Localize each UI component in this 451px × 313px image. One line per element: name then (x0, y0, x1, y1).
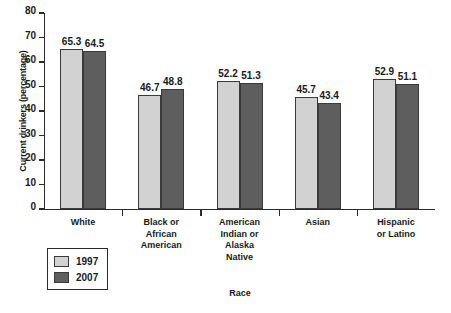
y-tick-70: 70 (39, 37, 44, 38)
bar-group: 65.364.5 (60, 13, 106, 209)
bar-1997[interactable] (295, 97, 318, 209)
plot-area: 01020304050607080 65.364.546.748.852.251… (44, 13, 435, 210)
y-tick-10: 10 (39, 184, 44, 185)
legend-swatch-2007 (54, 272, 69, 283)
category-label-line: Black or (116, 217, 206, 229)
bar-group: 52.951.1 (373, 13, 419, 209)
legend-item-1997: 1997 (54, 253, 98, 269)
bar-group: 46.748.8 (138, 13, 184, 209)
x-separator-tick (357, 210, 358, 216)
bar-1997[interactable] (217, 81, 240, 209)
y-tick-label-20: 20 (25, 152, 36, 163)
bar-1997[interactable] (60, 49, 83, 209)
legend-label-2007: 2007 (76, 272, 98, 283)
y-tick-0: 0 (39, 208, 44, 209)
bar-chart: Current drinkers (percentage) 0102030405… (0, 0, 451, 313)
category-label-line: African (116, 229, 206, 241)
bar-pair (373, 79, 419, 209)
category-label-line: White (38, 217, 128, 229)
x-separator-tick (279, 210, 280, 216)
category-label-line: Asian (273, 217, 363, 229)
x-separator-tick (200, 210, 201, 216)
legend-swatch-1997 (54, 256, 69, 267)
data-label: 51.3 (237, 70, 265, 81)
y-tick-label-0: 0 (30, 201, 36, 212)
y-tick-label-30: 30 (25, 128, 36, 139)
category-label: Asian (273, 217, 363, 229)
legend-label-1997: 1997 (76, 256, 98, 267)
data-label: 64.5 (81, 38, 109, 49)
data-label: 48.8 (159, 76, 187, 87)
y-tick-label-60: 60 (25, 54, 36, 65)
y-tick-40: 40 (39, 110, 44, 111)
bar-1997[interactable] (373, 79, 396, 209)
category-label-line: Alaska (195, 240, 285, 252)
category-label-line: American (195, 217, 285, 229)
y-tick-label-50: 50 (25, 79, 36, 90)
legend-item-2007: 2007 (54, 269, 98, 285)
y-tick-label-10: 10 (25, 177, 36, 188)
bar-group: 45.743.4 (295, 13, 341, 209)
y-tick-label-40: 40 (25, 103, 36, 114)
bar-2007[interactable] (396, 84, 419, 209)
category-label: Black orAfricanAmerican (116, 217, 206, 252)
category-label-line: or Latino (351, 229, 441, 241)
category-label-line: Native (195, 252, 285, 264)
y-tick-50: 50 (39, 86, 44, 87)
bar-pair (295, 97, 341, 209)
category-label: Hispanicor Latino (351, 217, 441, 240)
bar-2007[interactable] (83, 51, 106, 209)
y-tick-80: 80 (39, 12, 44, 13)
y-tick-60: 60 (39, 61, 44, 62)
legend: 1997 2007 (47, 248, 108, 290)
bar-pair (217, 81, 263, 209)
y-tick-30: 30 (39, 135, 44, 136)
y-tick-label-80: 80 (25, 5, 36, 16)
bar-2007[interactable] (161, 89, 184, 209)
bar-1997[interactable] (138, 95, 161, 209)
x-axis-title: Race (180, 288, 300, 298)
y-tick-label-70: 70 (25, 30, 36, 41)
category-label: AmericanIndian orAlaskaNative (195, 217, 285, 263)
x-separator-tick (122, 210, 123, 216)
bar-group: 52.251.3 (217, 13, 263, 209)
bar-2007[interactable] (318, 103, 341, 209)
bar-2007[interactable] (240, 83, 263, 209)
bar-pair (138, 89, 184, 209)
category-label-line: Indian or (195, 229, 285, 241)
category-label-line: Hispanic (351, 217, 441, 229)
category-label: White (38, 217, 128, 229)
y-axis-line (44, 13, 45, 210)
y-tick-20: 20 (39, 159, 44, 160)
bar-pair (60, 49, 106, 209)
category-label-line: American (116, 240, 206, 252)
